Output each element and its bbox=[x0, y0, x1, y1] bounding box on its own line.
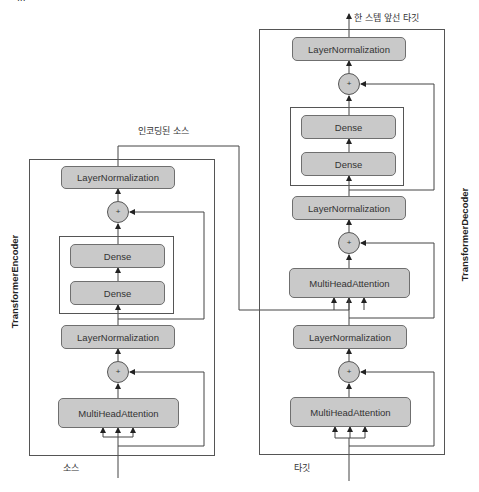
encoder-dense-2: Dense bbox=[70, 281, 165, 305]
top-cut-label: ... bbox=[17, 0, 26, 3]
encoded-source-label: 인코딩된 소스 bbox=[138, 124, 189, 137]
decoder-dense-1: Dense bbox=[301, 115, 396, 139]
encoder-add-top: + bbox=[107, 201, 129, 223]
encoder-multihead-attention: MultiHeadAttention bbox=[58, 398, 179, 428]
decoder-self-attention: MultiHeadAttention bbox=[290, 397, 411, 427]
decoder-title: TransformerDecoder bbox=[459, 185, 470, 285]
decoder-add-mid: + bbox=[338, 232, 360, 254]
encoder-add-bottom: + bbox=[107, 361, 129, 383]
encoder-layernorm-bottom: LayerNormalization bbox=[61, 325, 175, 349]
encoder-input-label: 소스 bbox=[63, 461, 79, 474]
decoder-layernorm-top: LayerNormalization bbox=[292, 37, 406, 61]
decoder-cross-attention: MultiHeadAttention bbox=[289, 268, 410, 298]
decoder-add-bottom: + bbox=[338, 361, 360, 383]
decoder-layernorm-bottom: LayerNormalization bbox=[293, 325, 407, 349]
encoder-title: TransformerEncoder bbox=[9, 232, 20, 332]
decoder-add-top: + bbox=[338, 73, 360, 95]
output-label: 한 스텝 앞선 타깃 bbox=[354, 11, 419, 24]
decoder-dense-2: Dense bbox=[301, 152, 396, 176]
decoder-input-label: 타깃 bbox=[294, 461, 310, 474]
encoder-layernorm-top: LayerNormalization bbox=[61, 166, 175, 189]
encoder-dense-1: Dense bbox=[70, 244, 165, 268]
decoder-layernorm-mid: LayerNormalization bbox=[292, 196, 406, 220]
